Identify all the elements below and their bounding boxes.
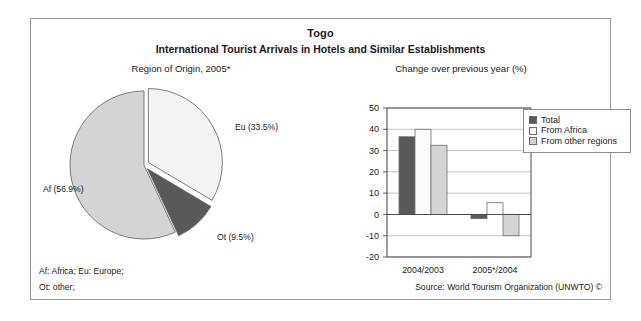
bar-chart-svg: 50403020100-10-20 2004/20032005*/2004 <box>326 77 606 277</box>
x-category-label: 2005*/2004 <box>472 265 517 275</box>
pie-label-eu: Eu (33.5%) <box>235 122 278 132</box>
figure-subtitle: International Tourist Arrivals in Hotels… <box>31 43 610 55</box>
legend-label-total: Total <box>541 116 560 125</box>
bar-chart: 50403020100-10-20 2004/20032005*/2004 <box>326 77 606 277</box>
bar-chart-x-axis: 2004/20032005*/2004 <box>402 265 517 275</box>
legend-label-from-other-regions: From other regions <box>541 137 617 146</box>
pie-label-af: Af (56.9%) <box>43 184 84 194</box>
footnote-abbreviations-2: Ot: other; <box>39 282 75 292</box>
y-tick-label: -10 <box>366 231 379 241</box>
page-title: Togo <box>31 27 610 39</box>
chart-legend: Total From Africa From other regions <box>523 109 631 153</box>
source-note: Source: World Tourism Organization (UNWT… <box>415 282 602 292</box>
x-category-label: 2004/2003 <box>402 265 444 275</box>
bar-chart-bars <box>399 129 519 235</box>
pie-label-ot: Ot (9.5%) <box>217 232 254 242</box>
y-tick-label: 30 <box>369 146 379 156</box>
pie-chart: Eu (33.5%) Af (56.9%) Ot (9.5%) <box>39 77 325 262</box>
legend-swatch-from-other-regions <box>529 137 537 145</box>
pie-chart-svg <box>39 77 325 262</box>
y-tick-label: 0 <box>374 210 379 220</box>
footnote-abbreviations-1: Af: Africa; Eu: Europe; <box>39 266 124 276</box>
legend-swatch-from-africa <box>529 127 537 135</box>
y-tick-label: 20 <box>369 167 379 177</box>
legend-item-total: Total <box>529 116 625 125</box>
y-tick-label: 40 <box>369 124 379 134</box>
legend-swatch-total <box>529 116 537 124</box>
bar-chart-caption: Change over previous year (%) <box>321 63 601 74</box>
y-tick-label: -20 <box>366 252 379 262</box>
pie-chart-caption: Region of Origin, 2005* <box>41 63 321 74</box>
legend-label-from-africa: From Africa <box>541 126 587 135</box>
bar-20042003-from-other-regions <box>431 145 447 214</box>
bar-20042003-from-africa <box>415 129 431 214</box>
y-tick-label: 10 <box>369 188 379 198</box>
legend-item-from-other-regions: From other regions <box>529 137 625 146</box>
bar-20052004-from-africa <box>487 203 503 215</box>
bar-chart-y-axis: 50403020100-10-20 <box>366 103 387 262</box>
figure-frame: Togo International Tourist Arrivals in H… <box>30 18 611 300</box>
bar-20052004-from-other-regions <box>503 214 519 235</box>
bar-20052004-total <box>471 214 487 218</box>
bar-20042003-total <box>399 137 415 215</box>
pie-slices <box>70 89 222 239</box>
y-tick-label: 50 <box>369 103 379 113</box>
legend-item-from-africa: From Africa <box>529 126 625 135</box>
